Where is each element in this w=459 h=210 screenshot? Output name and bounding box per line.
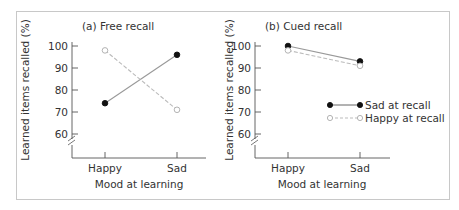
data-point-open [285, 48, 291, 54]
x-tick-label: Happy [271, 162, 305, 174]
axis-break-mark [68, 136, 75, 141]
y-tick-label: 90 [55, 62, 68, 74]
y-tick-label: 70 [55, 106, 68, 118]
y-axis-label: Learned items recalled (%) [223, 19, 235, 161]
y-tick-label: 60 [238, 128, 251, 140]
x-axis-label: Mood at learning [95, 178, 184, 190]
series-line-sad-at-recall [288, 46, 360, 61]
legend-marker-filled [357, 102, 362, 107]
x-tick-label: Sad [167, 162, 187, 174]
y-tick-label: 80 [55, 84, 68, 96]
data-point-filled [174, 52, 180, 58]
axis-break-mark [251, 136, 258, 141]
legend-label: Happy at recall [365, 112, 445, 124]
y-tick-label: 70 [238, 106, 251, 118]
chart-title: (a) Free recall [82, 20, 154, 32]
data-point-filled [102, 100, 108, 106]
legend-item: Happy at recall [327, 112, 444, 124]
legend-marker-open [357, 115, 362, 120]
chart-panel-free-recall: (a) Free recall60708090100HappySadMood a… [19, 19, 206, 190]
y-tick-label: 60 [55, 128, 68, 140]
series-line-happy-at-recall [105, 50, 177, 109]
chart-title: (b) Cued recall [265, 20, 342, 32]
y-tick-label: 90 [238, 62, 251, 74]
x-axis-label: Mood at learning [278, 178, 367, 190]
y-tick-label: 100 [48, 40, 68, 52]
x-tick-label: Sad [350, 162, 370, 174]
x-tick-label: Happy [88, 162, 122, 174]
data-point-open [357, 63, 363, 69]
axis-break-mark [251, 140, 258, 145]
legend: Sad at recallHappy at recall [327, 99, 444, 124]
axis-break-mark [68, 140, 75, 145]
y-tick-label: 80 [238, 84, 251, 96]
data-point-open [102, 48, 108, 54]
legend-marker-filled [327, 102, 332, 107]
legend-marker-open [327, 115, 332, 120]
series-line-sad-at-recall [105, 55, 177, 103]
series-line-happy-at-recall [288, 50, 360, 65]
chart-canvas: (a) Free recall60708090100HappySadMood a… [0, 0, 459, 210]
data-point-open [174, 107, 180, 113]
y-axis-label: Learned items recalled (%) [19, 19, 31, 161]
legend-label: Sad at recall [365, 99, 431, 111]
legend-item: Sad at recall [327, 99, 430, 111]
